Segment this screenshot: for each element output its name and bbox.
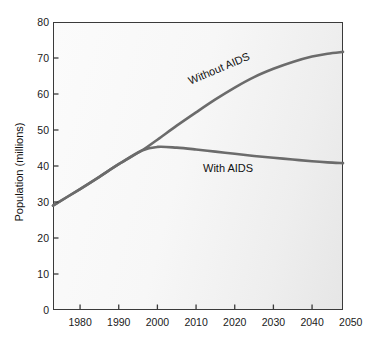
series-label-with-aids: With AIDS [203, 163, 253, 174]
x-tick-label: 2020 [223, 317, 246, 328]
x-axis-tick-labels: 19801990200020102020203020402050 [0, 0, 370, 339]
x-tick-label: 1980 [68, 317, 91, 328]
x-tick-label: 2040 [300, 317, 323, 328]
x-tick-label: 2030 [262, 317, 285, 328]
x-tick-label: 2050 [339, 317, 362, 328]
x-tick-label: 1990 [107, 317, 130, 328]
x-tick-label: 2000 [146, 317, 169, 328]
y-axis-title: Population (millions) [13, 102, 25, 242]
chart-figure: 01020304050607080 1980199020002010202020… [0, 0, 370, 339]
x-tick-label: 2010 [184, 317, 207, 328]
